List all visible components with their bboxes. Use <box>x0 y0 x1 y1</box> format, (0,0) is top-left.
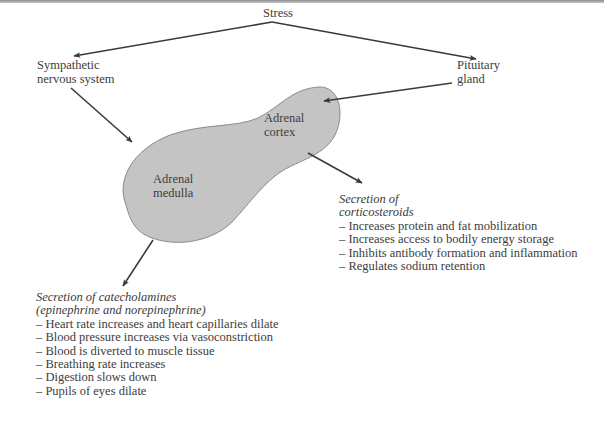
adrenal-medulla-label: Adrenal medulla <box>153 172 193 200</box>
adrenal-medulla-line-2: medulla <box>153 186 193 200</box>
arrow-pituitary-to-cortex <box>324 83 452 101</box>
arrow-stress-to-sympathetic <box>74 22 272 56</box>
stress-node: Stress <box>250 6 306 20</box>
arrow-stress-to-pituitary <box>272 22 476 59</box>
adrenal-medulla-line-1: Adrenal <box>153 172 193 186</box>
sympathetic-line-1: Sympathetic <box>37 58 114 72</box>
catecholamines-effect: – Blood pressure increases via vasoconst… <box>36 331 279 344</box>
corticosteroids-effect: – Inhibits antibody formation and inflam… <box>339 247 578 260</box>
catecholamines-effect: – Breathing rate increases <box>36 358 279 371</box>
pituitary-line-1: Pituitary <box>457 58 500 72</box>
corticosteroids-effect: – Increases access to bodily energy stor… <box>339 233 578 246</box>
arrow-sympathetic-to-adrenal <box>71 88 132 142</box>
catecholamines-effect: – Heart rate increases and heart capilla… <box>36 318 279 331</box>
catecholamines-effect: – Blood is diverted to muscle tissue <box>36 345 279 358</box>
catecholamines-block: Secretion of catecholamines (epinephrine… <box>36 291 279 398</box>
arrow-cortex-to-corticosteroids <box>308 153 362 183</box>
catecholamines-effect: – Pupils of eyes dilate <box>36 385 279 398</box>
pituitary-node: Pituitary gland <box>457 58 500 86</box>
catecholamines-effect: – Digestion slows down <box>36 371 279 384</box>
pituitary-line-2: gland <box>457 72 500 86</box>
adrenal-cortex-line-2: cortex <box>264 125 304 139</box>
arrow-medulla-to-catecholamines <box>123 240 153 286</box>
catecholamines-heading-1: Secretion of catecholamines <box>36 291 279 304</box>
corticosteroids-effect: – Increases protein and fat mobilization <box>339 220 578 233</box>
corticosteroids-heading-1: Secretion of <box>339 193 578 206</box>
corticosteroids-block: Secretion of corticosteroids – Increases… <box>339 193 578 273</box>
catecholamines-heading-2: (epinephrine and norepinephrine) <box>36 304 279 317</box>
corticosteroids-heading-2: corticosteroids <box>339 206 578 219</box>
adrenal-gland-shape <box>123 87 340 242</box>
sympathetic-node: Sympathetic nervous system <box>37 58 114 86</box>
sympathetic-line-2: nervous system <box>37 72 114 86</box>
adrenal-cortex-line-1: Adrenal <box>264 111 304 125</box>
adrenal-cortex-label: Adrenal cortex <box>264 111 304 139</box>
corticosteroids-effect: – Regulates sodium retention <box>339 260 578 273</box>
